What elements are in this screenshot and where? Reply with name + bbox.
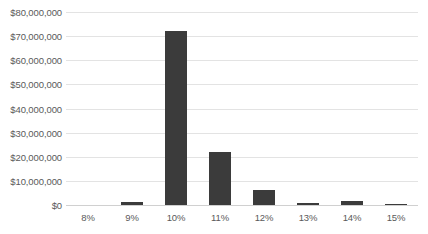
- x-tick-label: 13%: [286, 207, 330, 231]
- x-tick-label: 8%: [66, 207, 110, 231]
- bar-slot: [330, 12, 374, 205]
- bar[interactable]: [209, 152, 232, 205]
- x-axis: 8%9%10%11%12%13%14%15%: [66, 207, 418, 231]
- bar[interactable]: [385, 204, 408, 205]
- x-tick-label: 15%: [374, 207, 418, 231]
- plot-area: [66, 12, 418, 205]
- y-tick-label: $40,000,000: [10, 103, 62, 114]
- bar-slot: [242, 12, 286, 205]
- x-tick-label: 14%: [330, 207, 374, 231]
- y-tick-label: $20,000,000: [10, 151, 62, 162]
- bar-slot: [110, 12, 154, 205]
- y-tick-label: $50,000,000: [10, 79, 62, 90]
- chart-title: [0, 0, 428, 4]
- y-tick-label: $0: [52, 200, 62, 211]
- bar-slot: [374, 12, 418, 205]
- bar[interactable]: [341, 201, 364, 205]
- y-tick-label: $80,000,000: [10, 7, 62, 18]
- x-tick-label: 11%: [198, 207, 242, 231]
- bar-slot: [286, 12, 330, 205]
- bar[interactable]: [165, 31, 188, 205]
- bar-slot: [154, 12, 198, 205]
- x-tick-label: 10%: [154, 207, 198, 231]
- y-axis: $0$10,000,000$20,000,000$30,000,000$40,0…: [0, 0, 62, 234]
- x-tick-label: 12%: [242, 207, 286, 231]
- y-tick-label: $30,000,000: [10, 127, 62, 138]
- y-tick-label: $10,000,000: [10, 175, 62, 186]
- bar[interactable]: [253, 190, 276, 205]
- x-tick-label: 9%: [110, 207, 154, 231]
- bar-slot: [66, 12, 110, 205]
- y-tick-label: $60,000,000: [10, 55, 62, 66]
- bars-series: [66, 12, 418, 205]
- y-tick-label: $70,000,000: [10, 31, 62, 42]
- axis-baseline: [66, 205, 418, 206]
- bar-slot: [198, 12, 242, 205]
- bar[interactable]: [297, 203, 320, 205]
- bar-chart: $0$10,000,000$20,000,000$30,000,000$40,0…: [0, 0, 428, 234]
- bar[interactable]: [121, 202, 144, 205]
